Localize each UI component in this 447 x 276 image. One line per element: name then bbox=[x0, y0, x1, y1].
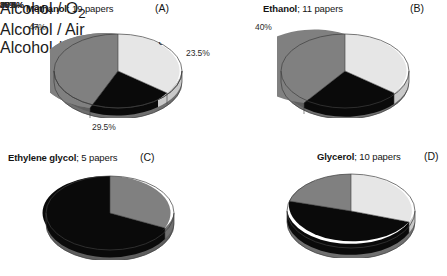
pie-chart-ethylene-glycol bbox=[42, 166, 178, 260]
pie-label-a-other: 23.5% bbox=[186, 48, 210, 58]
pie-chart-methanol bbox=[50, 24, 186, 118]
panel-a-letter: (A) bbox=[155, 2, 169, 14]
pie-chart-glycerol bbox=[283, 164, 419, 258]
panel-d-title-rest: ; 10 papers bbox=[354, 151, 400, 162]
panel-d-title-name: Glycerol bbox=[317, 151, 354, 162]
panel-d-letter: (D) bbox=[424, 150, 439, 162]
pie-label-a-air: 47% bbox=[29, 22, 46, 32]
panel-b-letter: (B) bbox=[410, 2, 424, 14]
pie-chart-figure: Methanol; 19 papers (A) bbox=[0, 0, 447, 276]
panel-c-title: Ethylene glycol; 5 papers bbox=[8, 152, 117, 163]
panel-b-title: Ethanol; 11 papers bbox=[263, 3, 343, 14]
panel-b-title-rest: ; 11 papers bbox=[297, 3, 343, 14]
panel-a-title-rest: ; 19 papers bbox=[67, 3, 113, 14]
panel-a-title: Methanol; 19 papers bbox=[26, 3, 113, 14]
panel-b-title-name: Ethanol bbox=[263, 3, 297, 14]
pie-label-a-o2: 29.5% bbox=[92, 122, 116, 132]
panel-a-title-name: Methanol bbox=[26, 3, 67, 14]
panel-c-title-rest: ; 5 papers bbox=[76, 152, 117, 163]
panel-c-title-name: Ethylene glycol bbox=[8, 152, 76, 163]
pie-chart-ethanol bbox=[277, 24, 413, 118]
pie-label-b-air: 40% bbox=[255, 22, 272, 32]
panel-c-letter: (C) bbox=[140, 151, 155, 163]
panel-d-title: Glycerol; 10 papers bbox=[317, 151, 401, 162]
pie-label-d-o2: 45.4% bbox=[0, 0, 24, 10]
